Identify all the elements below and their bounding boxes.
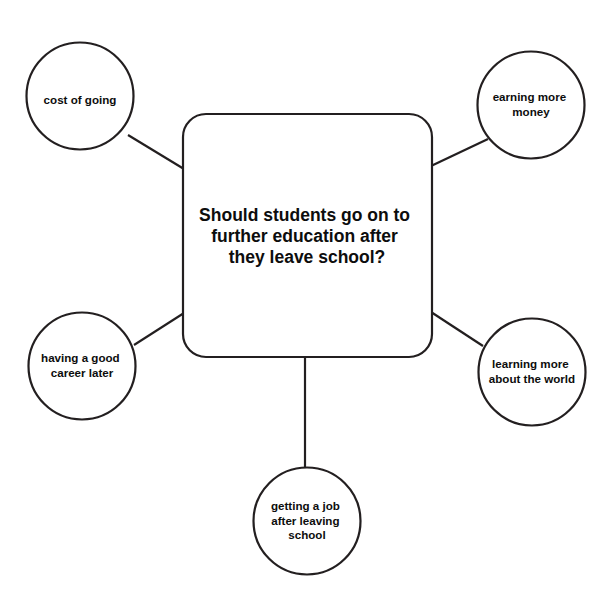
branch-label-learning-more-about-the-world: learning more about the world: [489, 357, 575, 385]
central-node[interactable]: Should students go on to further educati…: [183, 114, 432, 357]
connector-earning-more-money: [431, 139, 488, 166]
branch-label-having-a-good-career-later: having a good career later: [41, 351, 123, 379]
branch-label-cost-of-going: cost of going: [44, 93, 117, 106]
mind-map-diagram: Should students go on to further educati…: [0, 0, 615, 611]
branch-node-cost-of-going[interactable]: cost of going: [27, 43, 134, 150]
branch-node-getting-a-job-after-leaving-school[interactable]: getting a job after leaving school: [254, 468, 361, 575]
branch-node-having-a-good-career-later[interactable]: having a good career later: [29, 313, 136, 420]
branch-node-earning-more-money[interactable]: earning more money: [478, 52, 585, 159]
connector-cost-of-going: [128, 135, 184, 169]
central-node-label: Should students go on to further educati…: [199, 205, 415, 267]
branch-node-learning-more-about-the-world[interactable]: learning more about the world: [479, 319, 586, 426]
connector-having-a-good-career-later: [134, 313, 184, 345]
connector-learning-more-about-the-world: [431, 312, 483, 346]
